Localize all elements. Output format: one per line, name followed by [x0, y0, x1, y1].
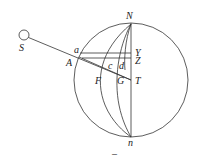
label-a: a [74, 44, 79, 55]
label-T: T [135, 75, 142, 86]
diagram-canvas: S a A N n Y Z c d F G T – [0, 0, 200, 157]
caption: – [111, 148, 118, 157]
label-F: F [94, 75, 102, 86]
label-n: n [128, 137, 133, 148]
label-c: c [108, 60, 113, 71]
geometry-figure: S a A N n Y Z c d F G T – [0, 0, 200, 157]
label-A: A [65, 57, 73, 68]
label-S: S [19, 42, 24, 53]
label-N: N [125, 10, 134, 21]
label-Z: Z [135, 55, 141, 66]
label-G: G [117, 75, 124, 86]
sun-circle-s [19, 30, 29, 40]
label-d: d [119, 60, 125, 71]
